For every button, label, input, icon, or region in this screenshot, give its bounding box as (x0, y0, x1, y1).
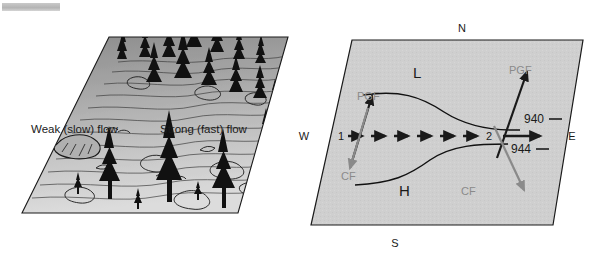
point-1-label: 1 (338, 130, 344, 142)
pressure-gradient-panel: 940 944 PGF PGF CF CF L H 1 2 N S W E (299, 22, 583, 249)
cf-left-label: CF (341, 170, 356, 182)
figure-root: Weak (slow) flow Strong (fast) flow (0, 0, 596, 260)
figure-canvas: Weak (slow) flow Strong (fast) flow (0, 0, 596, 260)
map-panel-surface (311, 40, 583, 225)
weak-flow-label: Weak (slow) flow (31, 123, 118, 135)
pgf-left-label: PGF (357, 90, 380, 102)
corner-gray-bar (2, 3, 60, 11)
point-2-label: 2 (486, 130, 492, 142)
cf-right-label: CF (461, 185, 476, 197)
low-pressure-label: L (413, 64, 421, 81)
terrain-flow-panel: Weak (slow) flow Strong (fast) flow (22, 6, 288, 213)
compass-north-label: N (458, 22, 466, 34)
compass-west-label: W (299, 130, 310, 142)
compass-east-label: E (568, 130, 575, 142)
pgf-right-label: PGF (509, 64, 532, 76)
isobar-944-label: 944 (511, 142, 531, 156)
isobar-940-label: 940 (524, 112, 544, 126)
strong-flow-label-alt: Strong (fast) flow (160, 123, 248, 135)
compass-south-label: S (391, 237, 398, 249)
high-pressure-label: H (399, 182, 410, 199)
